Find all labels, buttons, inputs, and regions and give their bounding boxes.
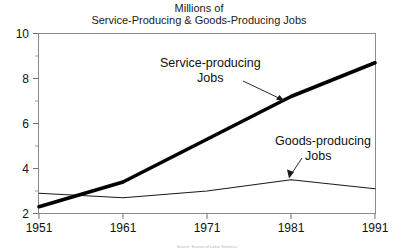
chart-root: Millions of Service-Producing & Goods-Pr… bbox=[0, 0, 398, 251]
y-tick-label-4: 4 bbox=[22, 162, 29, 176]
y-tick-label-2: 2 bbox=[22, 207, 29, 221]
y-tick-label-6: 6 bbox=[22, 117, 29, 131]
x-tick-label-1961: 1961 bbox=[110, 221, 137, 235]
y-tick-label-8: 8 bbox=[22, 72, 29, 86]
service-annotation-leader bbox=[243, 81, 285, 102]
annotation-goods-producing-line-1: Goods-producing bbox=[275, 134, 371, 148]
x-tick-label-1951: 1951 bbox=[26, 221, 53, 235]
x-tick-label-1991: 1991 bbox=[362, 221, 389, 235]
x-tick-label-1981: 1981 bbox=[278, 221, 305, 235]
source-note: Source: Bureau of Labor Statistics bbox=[177, 244, 238, 249]
chart-plot-area: 10 8 6 4 2 1951 1961 1971 1981 1991 bbox=[0, 0, 398, 251]
y-axis-major-ticks bbox=[33, 34, 39, 214]
annotation-goods-producing-line-2: Jobs bbox=[305, 149, 331, 163]
annotation-service-producing-line-2: Jobs bbox=[197, 71, 223, 85]
x-axis-ticks bbox=[39, 214, 375, 220]
series-line-goods-producing bbox=[39, 180, 375, 198]
annotation-service-producing-line-1: Service-producing bbox=[160, 56, 261, 70]
y-tick-label-10: 10 bbox=[16, 27, 30, 41]
goods-annotation-leader bbox=[287, 158, 302, 179]
x-tick-label-1971: 1971 bbox=[194, 221, 221, 235]
